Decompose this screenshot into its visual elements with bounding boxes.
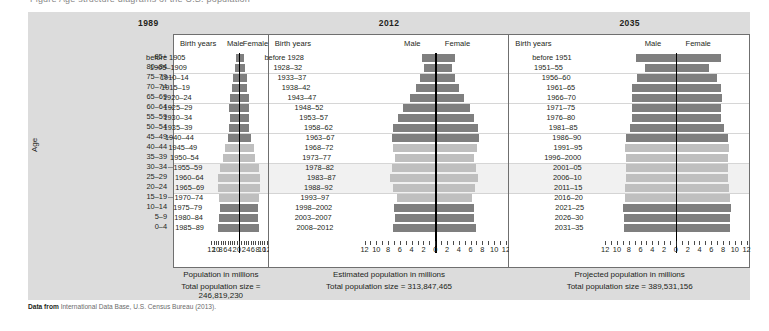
birth-years-label: 2021–25 xyxy=(555,203,584,213)
bar-male xyxy=(632,104,676,112)
panel-plot-area: Birth yearsMaleFemalebefore 19281928–321… xyxy=(269,34,510,268)
pyramid-row: 1956–60 xyxy=(509,73,749,83)
column-headers: Birth yearsMaleFemale xyxy=(509,39,749,52)
axis-tick-label: 2 xyxy=(445,245,449,255)
birth-years-label: 1940–44 xyxy=(165,133,194,143)
bar-male xyxy=(392,134,436,142)
clipped-caption: Figure Age structure diagrams of the U.S… xyxy=(0,0,769,11)
pyramid-row: 1958–62 xyxy=(269,123,509,133)
birth-years-label: 2001–05 xyxy=(553,163,582,173)
pyramid-row: 1983–87 xyxy=(269,173,509,183)
bar-female xyxy=(435,204,474,212)
pyramid-row: 1905–1909 xyxy=(174,63,268,73)
bar-female xyxy=(435,94,463,102)
bar-female xyxy=(435,114,474,122)
bar-female xyxy=(435,124,477,132)
bar-female xyxy=(676,194,730,202)
birth-years-label: 1985–89 xyxy=(175,223,204,233)
bar-female xyxy=(239,94,249,102)
bar-female xyxy=(239,164,259,172)
bar-female xyxy=(239,114,249,122)
bar-male xyxy=(220,164,240,172)
header-birth-years: Birth years xyxy=(180,39,216,48)
birth-years-label: 1960–64 xyxy=(175,173,204,183)
birth-years-label: 1973–77 xyxy=(302,153,331,163)
pyramid-row: 1951–55 xyxy=(509,63,749,73)
header-male: Male xyxy=(404,39,420,48)
axis-tick-label: 6 xyxy=(469,245,473,255)
bar-male xyxy=(398,114,435,122)
source-prefix: Data from xyxy=(28,303,59,310)
birth-years-label: 2011–15 xyxy=(554,183,582,193)
bar-male xyxy=(229,124,239,132)
bar-female xyxy=(435,194,472,202)
pyramid-row: 1920–24 xyxy=(174,93,268,103)
axis-tick-label: 0 xyxy=(237,245,241,255)
birth-years-label: 2031–35 xyxy=(555,223,584,233)
birth-years-label: 2006–10 xyxy=(553,173,582,183)
birth-years-label: 1950–54 xyxy=(170,153,199,163)
bar-female xyxy=(435,174,478,182)
birth-years-label: 1915–19 xyxy=(161,83,190,93)
axis-tick-label: 2 xyxy=(242,245,246,255)
bar-female xyxy=(676,114,721,122)
bar-female xyxy=(239,194,259,202)
axis-tick-label: 8 xyxy=(219,245,223,255)
bar-male xyxy=(393,144,435,152)
bar-male xyxy=(395,154,435,162)
bar-male xyxy=(416,84,435,92)
birth-years-label: before 1928 xyxy=(264,53,303,63)
birth-years-label: 1991–95 xyxy=(554,143,583,153)
axis-tick-label: 12 xyxy=(742,245,750,255)
bar-female xyxy=(239,124,249,132)
birth-years-label: 1958–62 xyxy=(304,123,333,133)
pyramid-row: 1948–52 xyxy=(269,103,509,113)
birth-years-label: 1965–69 xyxy=(175,183,204,193)
header-female: Female xyxy=(243,39,268,48)
bar-female xyxy=(676,204,731,212)
axis-tick-label: 6 xyxy=(223,245,227,255)
axis-tick-label: 10 xyxy=(372,245,380,255)
pyramid-row: 1945–49 xyxy=(174,143,268,153)
panel-container: 1989Birth yearsMaleFemalebefore 19051905… xyxy=(28,12,750,300)
pyramid-row: before 1928 xyxy=(269,53,509,63)
axis-tick-label: 8 xyxy=(386,245,390,255)
birth-years-label: 1905–1909 xyxy=(150,63,187,73)
x-axis-title: Projected population in millions xyxy=(509,270,750,279)
bar-male xyxy=(225,144,240,152)
pyramid-row: before 1951 xyxy=(509,53,749,63)
population-pyramid-figure: Figure Age structure diagrams of the U.S… xyxy=(0,0,769,331)
zero-axis-line xyxy=(435,53,436,253)
pyramid-row: 1985–89 xyxy=(174,223,268,233)
x-axis-title: Estimated population in millions xyxy=(269,270,510,279)
axis-tick-label: 6 xyxy=(639,245,643,255)
axis-tick-label: 2 xyxy=(686,245,690,255)
bar-female xyxy=(435,64,451,72)
pyramid-row: 1976–80 xyxy=(509,113,749,123)
birth-years-label: 2008–2012 xyxy=(296,223,333,233)
bar-male xyxy=(422,54,435,62)
birth-years-label: 1988–92 xyxy=(304,183,333,193)
axis-tick-label: 8 xyxy=(627,245,631,255)
bar-female xyxy=(435,104,470,112)
bar-female xyxy=(676,104,721,112)
birth-years-label: 1975–79 xyxy=(173,203,202,213)
pyramid-row: 1928–32 xyxy=(269,63,509,73)
bar-female xyxy=(435,214,474,222)
bar-male xyxy=(392,164,435,172)
header-birth-years: Birth years xyxy=(515,39,551,48)
bar-female xyxy=(676,214,730,222)
panel-plot-area: Birth yearsMaleFemalebefore 19511951–551… xyxy=(509,34,750,268)
bar-male xyxy=(394,204,435,212)
birth-years-label: before 1951 xyxy=(532,53,571,63)
panel-year-title: 2012 xyxy=(269,18,510,28)
bar-female xyxy=(435,74,455,82)
bar-female xyxy=(676,164,728,172)
bar-female xyxy=(435,184,475,192)
birth-years-label: 1961–65 xyxy=(546,83,575,93)
axis-tick-label: 4 xyxy=(228,245,232,255)
x-axis: 12108642024681012 xyxy=(269,241,509,255)
birth-years-label: 1938–42 xyxy=(282,83,311,93)
bar-male xyxy=(395,214,436,222)
pyramid-row: 1988–92 xyxy=(269,183,509,193)
